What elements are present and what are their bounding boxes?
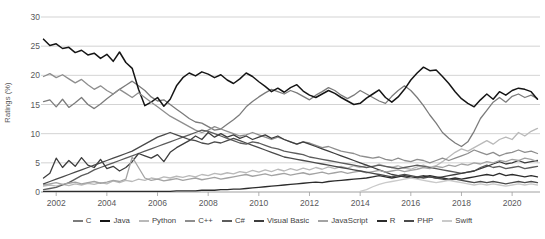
legend-item-java[interactable]: Java [100, 217, 129, 225]
x-tick-label: 2020 [503, 199, 522, 208]
x-tick-label: 2014 [351, 199, 370, 208]
legend-swatch-icon [442, 220, 452, 222]
legend-item-r[interactable]: R [377, 217, 396, 225]
legend-swatch-icon [100, 220, 110, 222]
legend-item-javascript[interactable]: JavaScript [318, 217, 367, 225]
x-tick-label: 2018 [452, 199, 471, 208]
legend-label: PHP [417, 217, 433, 225]
legend-item-python[interactable]: Python [139, 217, 176, 225]
legend-item-c-[interactable]: C# [222, 217, 245, 225]
legend-swatch-icon [185, 220, 195, 222]
x-tick-label: 2016 [401, 199, 420, 208]
x-tick-label: 2004 [97, 199, 116, 208]
legend-swatch-icon [254, 220, 264, 222]
legend-item-c[interactable]: C [73, 217, 92, 225]
legend-label: Visual Basic [267, 217, 309, 225]
legend-item-swift[interactable]: Swift [442, 217, 472, 225]
legend-swatch-icon [404, 220, 414, 222]
legend-swatch-icon [222, 220, 232, 222]
legend-label: JavaScript [331, 217, 367, 225]
x-tick-label: 2012 [300, 199, 319, 208]
legend-item-php[interactable]: PHP [404, 217, 433, 225]
legend-label: Java [113, 217, 129, 225]
legend-label: C [86, 217, 92, 225]
legend-item-c-[interactable]: C++ [185, 217, 213, 225]
x-axis-tick-labels: 2002200420062008201020122014201620182020 [0, 0, 545, 239]
legend-swatch-icon [318, 220, 328, 222]
legend-item-visual-basic[interactable]: Visual Basic [254, 217, 309, 225]
x-tick-label: 2002 [47, 199, 66, 208]
x-tick-label: 2006 [148, 199, 167, 208]
legend-swatch-icon [377, 220, 387, 222]
legend-label: Python [152, 217, 176, 225]
legend-swatch-icon [139, 220, 149, 222]
ratings-line-chart: Ratings (%) 051015202530 200220042006200… [0, 0, 545, 239]
x-tick-label: 2010 [249, 199, 268, 208]
legend-label: R [390, 217, 396, 225]
legend-label: C# [235, 217, 245, 225]
legend-label: Swift [455, 217, 472, 225]
legend-swatch-icon [73, 220, 83, 222]
chart-legend: CJavaPythonC++C#Visual BasicJavaScriptRP… [0, 213, 545, 229]
x-tick-label: 2008 [199, 199, 218, 208]
legend-label: C++ [198, 217, 213, 225]
